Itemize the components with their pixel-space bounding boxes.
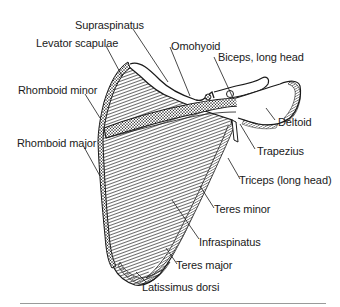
label-triceps-long-head: Triceps (long head) xyxy=(239,174,331,186)
label-rhomboid-major: Rhomboid major xyxy=(17,137,96,149)
leader-trapezius xyxy=(240,124,255,149)
label-levator-scapulae: Levator scapulae xyxy=(36,37,118,49)
label-supraspinatus: Supraspinatus xyxy=(75,19,144,31)
label-teres-major: Teres major xyxy=(176,259,232,271)
label-latissimus-dorsi: Latissimus dorsi xyxy=(142,281,219,293)
label-teres-minor: Teres minor xyxy=(214,203,270,215)
label-omohyoid: Omohyoid xyxy=(171,40,220,52)
label-deltoid: Deltoid xyxy=(278,116,312,128)
label-biceps-long-head: Biceps, long head xyxy=(218,51,304,63)
leader-omohyoid xyxy=(170,47,190,96)
leader-rhomboid-major xyxy=(84,147,100,176)
scapula-diagram: Supraspinatus Levator scapulae Rhomboid … xyxy=(0,0,340,307)
leader-levator-scapulae xyxy=(106,46,122,76)
leader-rhomboid-minor xyxy=(85,94,100,118)
glenoid-neck xyxy=(232,120,238,142)
label-trapezius: Trapezius xyxy=(257,145,304,157)
label-infraspinatus: Infraspinatus xyxy=(199,236,261,248)
bottom-rule xyxy=(20,303,326,304)
scapula-body xyxy=(100,66,236,285)
label-rhomboid-minor: Rhomboid minor xyxy=(18,84,97,96)
omohyoid-attachment xyxy=(205,94,211,100)
